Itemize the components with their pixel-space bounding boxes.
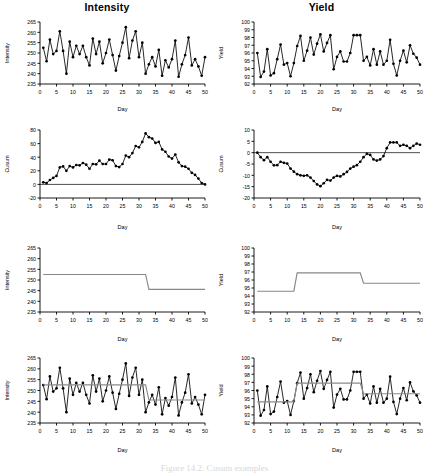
svg-text:245: 245 — [27, 61, 36, 67]
panel-yield-raw: Yield92939495969798991000510152025303540… — [214, 0, 429, 118]
svg-text:10: 10 — [70, 317, 76, 323]
plot-yield-step: 929394959697989910005101520253035404550Y… — [214, 236, 429, 348]
svg-text:98: 98 — [244, 261, 250, 267]
svg-text:30: 30 — [351, 428, 357, 434]
svg-text:50: 50 — [417, 317, 423, 323]
svg-text:25: 25 — [120, 317, 126, 323]
svg-text:25: 25 — [120, 203, 126, 209]
svg-text:20: 20 — [103, 428, 109, 434]
svg-text:240: 240 — [27, 71, 36, 77]
svg-text:5: 5 — [269, 317, 272, 323]
svg-text:5: 5 — [269, 428, 272, 434]
svg-text:15: 15 — [87, 428, 93, 434]
svg-text:15: 15 — [301, 203, 307, 209]
svg-text:20: 20 — [103, 89, 109, 95]
svg-text:98: 98 — [244, 372, 250, 378]
panel-yield-overlay: 929394959697989910005101520253035404550Y… — [214, 348, 429, 459]
svg-text:93: 93 — [244, 74, 250, 80]
svg-text:92: 92 — [244, 420, 250, 426]
svg-text:45: 45 — [186, 317, 192, 323]
plot-intensity-raw: 2352402452502552602650510152025303540455… — [0, 0, 214, 118]
svg-text:20: 20 — [318, 317, 324, 323]
svg-text:240: 240 — [27, 410, 36, 416]
svg-text:235: 235 — [27, 420, 36, 426]
svg-text:45: 45 — [401, 89, 407, 95]
plot-intensity-step: 2352402452502552602650510152025303540455… — [0, 236, 214, 348]
svg-text:99: 99 — [244, 364, 250, 370]
panel-intensity-raw: Intensity2352402452502552602650510152025… — [0, 0, 214, 118]
x-axis-label: Day — [118, 224, 128, 230]
svg-text:80: 80 — [30, 127, 36, 133]
svg-text:60: 60 — [30, 141, 36, 147]
svg-text:95: 95 — [244, 285, 250, 291]
svg-text:40: 40 — [169, 317, 175, 323]
svg-text:10: 10 — [284, 317, 290, 323]
svg-text:-10: -10 — [243, 173, 251, 179]
svg-text:20: 20 — [103, 203, 109, 209]
y-axis-label: Yield — [218, 274, 224, 286]
svg-text:0: 0 — [39, 317, 42, 323]
svg-text:96: 96 — [244, 50, 250, 56]
y-axis-label: Cusum — [218, 155, 224, 173]
svg-text:25: 25 — [334, 317, 340, 323]
svg-text:5: 5 — [269, 89, 272, 95]
svg-text:94: 94 — [244, 293, 250, 299]
svg-text:45: 45 — [186, 89, 192, 95]
svg-text:15: 15 — [301, 428, 307, 434]
svg-text:10: 10 — [70, 428, 76, 434]
svg-text:0: 0 — [33, 182, 36, 188]
svg-text:10: 10 — [70, 203, 76, 209]
svg-text:255: 255 — [27, 40, 36, 46]
svg-text:20: 20 — [318, 428, 324, 434]
panel-intensity-step: 2352402452502552602650510152025303540455… — [0, 236, 214, 348]
svg-text:255: 255 — [27, 377, 36, 383]
svg-text:50: 50 — [417, 89, 423, 95]
x-axis-label: Day — [332, 447, 342, 453]
svg-text:25: 25 — [334, 428, 340, 434]
svg-text:265: 265 — [27, 19, 36, 25]
svg-text:92: 92 — [244, 81, 250, 87]
svg-text:97: 97 — [244, 269, 250, 275]
svg-text:255: 255 — [27, 267, 36, 273]
svg-text:10: 10 — [284, 203, 290, 209]
svg-text:100: 100 — [241, 245, 250, 251]
svg-text:25: 25 — [334, 203, 340, 209]
svg-text:-5: -5 — [245, 161, 250, 167]
panel-intensity-cusum: -2002040608005101520253035404550CusumDay — [0, 118, 214, 236]
svg-text:-15: -15 — [243, 184, 251, 190]
panel-yield-step: 929394959697989910005101520253035404550Y… — [214, 236, 429, 348]
svg-text:50: 50 — [202, 428, 208, 434]
svg-text:50: 50 — [417, 203, 423, 209]
svg-text:15: 15 — [301, 89, 307, 95]
x-axis-label: Day — [332, 224, 342, 230]
svg-text:96: 96 — [244, 388, 250, 394]
svg-text:30: 30 — [136, 89, 142, 95]
svg-text:10: 10 — [244, 127, 250, 133]
svg-text:98: 98 — [244, 35, 250, 41]
svg-text:92: 92 — [244, 309, 250, 315]
x-axis-label: Day — [118, 106, 128, 112]
svg-text:45: 45 — [401, 428, 407, 434]
svg-text:45: 45 — [186, 428, 192, 434]
svg-text:97: 97 — [244, 380, 250, 386]
svg-text:240: 240 — [27, 299, 36, 305]
svg-text:25: 25 — [334, 89, 340, 95]
svg-text:40: 40 — [169, 89, 175, 95]
svg-text:5: 5 — [55, 203, 58, 209]
svg-text:40: 40 — [169, 428, 175, 434]
svg-text:20: 20 — [318, 89, 324, 95]
svg-text:100: 100 — [241, 19, 250, 25]
svg-text:5: 5 — [55, 428, 58, 434]
svg-text:40: 40 — [384, 203, 390, 209]
svg-text:20: 20 — [103, 317, 109, 323]
svg-text:35: 35 — [367, 89, 373, 95]
svg-text:25: 25 — [120, 89, 126, 95]
svg-text:250: 250 — [27, 50, 36, 56]
svg-text:0: 0 — [39, 89, 42, 95]
svg-text:10: 10 — [284, 89, 290, 95]
svg-text:260: 260 — [27, 256, 36, 262]
svg-text:260: 260 — [27, 30, 36, 36]
svg-text:40: 40 — [384, 89, 390, 95]
svg-text:97: 97 — [244, 43, 250, 49]
svg-text:50: 50 — [202, 203, 208, 209]
